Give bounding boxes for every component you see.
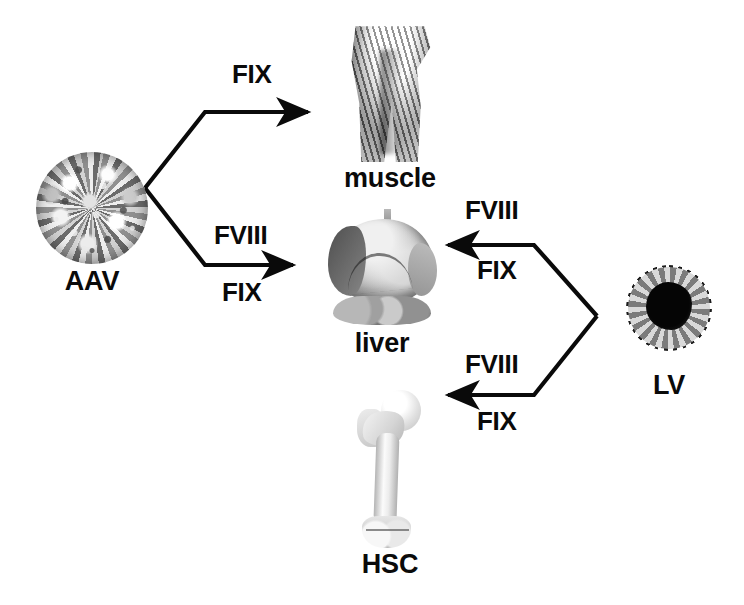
edge-label-aav-muscle-fix: FIX [232,59,272,90]
node-aav: AAV [22,152,162,295]
node-hsc: HSC [330,390,450,578]
aav-capsid-icon [36,152,148,264]
node-liver: liver [316,207,448,357]
lentivirus-particle-icon [609,248,729,368]
hsc-label: HSC [330,551,450,578]
node-lv: LV [604,248,734,399]
lv-label: LV [604,372,734,399]
node-muscle: muscle [322,22,458,192]
gene-therapy-vector-tropism-diagram: AAV LV muscle liver [0,0,744,605]
aav-label: AAV [22,268,162,295]
liver-label: liver [316,330,448,357]
edge-label-lv-liver-fviii: FVIII [465,195,518,226]
femur-bone-image [347,390,433,548]
edge-label-lv-hsc-fix: FIX [477,406,517,437]
liver-organ-image [326,207,438,327]
edge-label-aav-liver-fviii: FVIII [214,220,267,251]
muscle-arm-image [342,22,438,162]
edge-lv-to-liver [448,245,597,316]
edge-label-aav-liver-fix: FIX [222,277,262,308]
edge-label-lv-hsc-fviii: FVIII [465,349,518,380]
edge-label-lv-liver-fix: FIX [477,255,517,286]
muscle-label: muscle [322,165,458,192]
edge-aav-to-muscle [145,112,308,188]
